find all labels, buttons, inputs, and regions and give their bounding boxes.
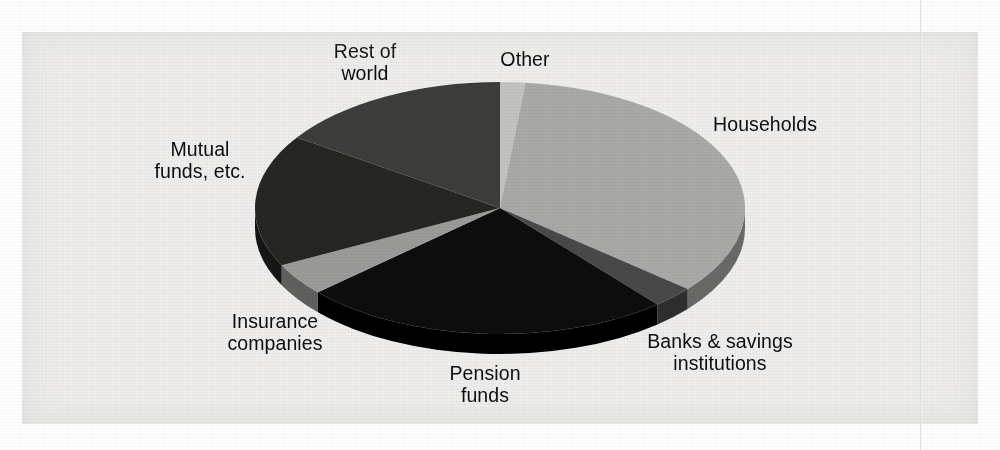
pie-top-faces xyxy=(255,82,745,334)
pie-chart-figure: Rest of world Other Households Banks & s… xyxy=(0,0,1000,450)
slice-label-insurance-companies: Insurance companies xyxy=(190,310,360,354)
slice-label-rest-of-world: Rest of world xyxy=(300,40,430,84)
slice-label-mutual-funds: Mutual funds, etc. xyxy=(120,138,280,182)
scan-seam-highlight xyxy=(921,0,922,450)
slice-label-pension-funds: Pension funds xyxy=(420,362,550,406)
slice-label-households: Households xyxy=(690,113,840,135)
slice-label-banks-savings-institutions: Banks & savings institutions xyxy=(620,330,820,374)
slice-label-other: Other xyxy=(470,48,580,70)
